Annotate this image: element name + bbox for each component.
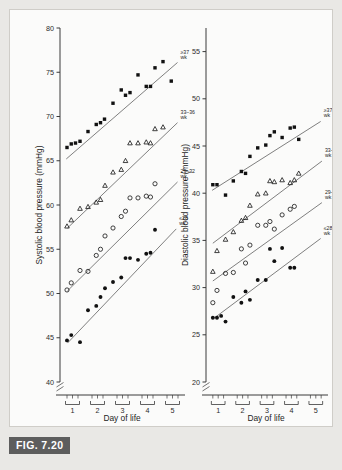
- x-ticks-diastolic: [213, 395, 321, 399]
- data-point: [280, 136, 283, 139]
- x-tick-label: 1: [71, 406, 75, 415]
- fit-lines-diastolic: [212, 121, 322, 318]
- data-point: [219, 314, 223, 318]
- x-tick-label: 5: [314, 406, 318, 415]
- data-point: [288, 266, 292, 270]
- y-ticks-systolic: [57, 28, 61, 382]
- regression-line: [212, 121, 321, 190]
- x-tick-label: 2: [96, 406, 100, 415]
- y-tick-label: 20: [192, 378, 200, 387]
- data-point: [78, 206, 83, 210]
- data-point: [136, 141, 141, 145]
- data-point: [264, 278, 268, 282]
- series-label-line2: wk: [181, 54, 188, 60]
- y-tick-label: 75: [46, 68, 54, 77]
- data-point: [78, 340, 82, 344]
- data-point: [170, 79, 173, 82]
- data-point: [78, 140, 81, 143]
- data-points-systolic: [65, 60, 173, 344]
- data-point: [98, 247, 102, 251]
- data-point: [153, 66, 156, 69]
- y-tick-label: 30: [192, 283, 200, 292]
- data-point: [273, 130, 276, 133]
- series-label-line2: wk: [324, 112, 331, 118]
- y-tick-label: 25: [192, 330, 200, 339]
- series-label-line2: wk: [325, 152, 332, 158]
- data-point: [256, 278, 260, 282]
- data-point: [99, 295, 103, 299]
- data-point: [148, 141, 153, 145]
- data-point: [128, 91, 131, 94]
- data-point: [248, 243, 252, 247]
- data-point: [288, 207, 292, 211]
- data-point: [272, 179, 277, 183]
- data-point: [136, 258, 140, 262]
- data-point: [231, 230, 236, 234]
- regression-line: [68, 123, 178, 228]
- data-point: [128, 196, 132, 200]
- data-point: [264, 223, 268, 227]
- data-point: [65, 146, 68, 149]
- data-point: [120, 88, 123, 91]
- data-point: [124, 94, 127, 97]
- x-tick-label: 4: [289, 406, 293, 415]
- y-axis-title-diastolic: Diastolic blood pressure (mmHg): [180, 144, 190, 266]
- data-point: [144, 252, 148, 256]
- data-point: [94, 253, 98, 257]
- data-point: [223, 237, 228, 241]
- x-ticks-systolic: [67, 395, 178, 399]
- y-tick-labels-systolic: 404550556065707580: [46, 24, 54, 387]
- x-day-bracket: [141, 401, 155, 405]
- data-point: [161, 60, 164, 63]
- x-tick-label: 1: [216, 406, 220, 415]
- data-point: [231, 295, 235, 299]
- data-point: [224, 193, 227, 196]
- x-axis-title-systolic: Day of life: [103, 413, 141, 423]
- panel-systolic: 404550556065707580 12345 Systolic blood …: [34, 24, 195, 423]
- data-point: [111, 280, 115, 284]
- y-axis-title-systolic: Systolic blood pressure (mmHg): [34, 145, 44, 264]
- data-point: [268, 219, 272, 223]
- data-point: [144, 194, 148, 198]
- y-tick-label: 65: [46, 156, 54, 165]
- x-tick-label: 2: [241, 406, 245, 415]
- y-tick-label: 55: [46, 245, 54, 254]
- data-point: [153, 228, 157, 232]
- series-label-line2: wk: [181, 114, 188, 120]
- data-point: [256, 146, 259, 149]
- data-point: [297, 138, 300, 141]
- data-point: [244, 172, 247, 175]
- series-label-line2: wk: [325, 194, 332, 200]
- data-point: [123, 158, 128, 162]
- data-point: [136, 196, 140, 200]
- figure-page: 404550556065707580 12345 Systolic blood …: [0, 0, 342, 470]
- x-day-bracket: [66, 401, 80, 405]
- y-tick-label: 35: [192, 236, 200, 245]
- data-point: [248, 203, 253, 207]
- regression-line: [213, 161, 322, 243]
- data-point: [248, 155, 251, 158]
- y-tick-label: 50: [46, 289, 54, 298]
- data-point: [243, 261, 247, 265]
- data-point: [240, 170, 243, 173]
- data-point: [288, 180, 293, 184]
- data-point: [119, 167, 124, 171]
- x-day-bracket: [236, 401, 250, 405]
- x-day-bracket: [91, 401, 105, 405]
- x-day-bracket: [211, 401, 225, 405]
- data-point: [103, 286, 107, 290]
- data-point: [280, 178, 285, 182]
- data-point: [268, 134, 271, 137]
- x-day-bracket: [260, 401, 274, 405]
- data-point: [128, 141, 133, 145]
- data-point: [111, 226, 115, 230]
- data-point: [248, 298, 252, 302]
- data-point: [272, 259, 276, 263]
- data-point: [69, 281, 73, 285]
- data-point: [103, 183, 108, 187]
- data-point: [119, 214, 123, 218]
- data-point: [268, 179, 273, 183]
- data-point: [99, 121, 102, 124]
- data-point: [149, 251, 153, 255]
- series-label-line2: wk: [324, 230, 331, 236]
